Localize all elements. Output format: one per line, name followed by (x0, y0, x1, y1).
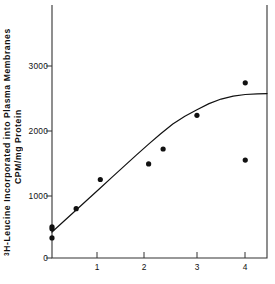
data-point (49, 235, 54, 240)
data-point (161, 146, 166, 151)
plot-area (0, 0, 275, 284)
data-point (74, 206, 79, 211)
curve-path (52, 94, 267, 233)
data-point (194, 113, 199, 118)
chart-figure: 3H-Leucine Incorporated into Plasma Memb… (0, 0, 275, 284)
axis-frame (52, 5, 267, 258)
data-point (146, 161, 151, 166)
data-point (243, 157, 248, 162)
fitted-curve (52, 94, 267, 233)
data-point (98, 177, 103, 182)
data-point (243, 80, 248, 85)
data-point (49, 226, 54, 231)
x-axis-ticks (97, 252, 245, 258)
data-points (49, 80, 247, 240)
frame-lines (52, 5, 267, 258)
